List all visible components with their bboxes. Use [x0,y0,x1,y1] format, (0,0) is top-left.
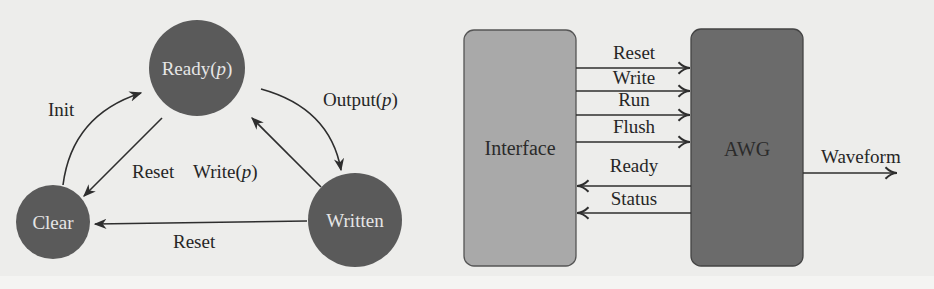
block-diagram: Interface AWG Reset Write Run Flush Read… [464,29,901,266]
node-clear-label: Clear [32,212,74,233]
node-ready-close: ) [226,58,232,80]
signal-write: Write [576,67,690,91]
awg-label: AWG [724,138,770,160]
svg-text:Reset: Reset [613,42,656,63]
svg-text:Write: Write [613,67,656,88]
edge-init [63,93,141,185]
edge-write [252,118,321,187]
awg-box: AWG [691,29,803,266]
signal-ready: Ready [577,155,691,186]
node-ready-param: p [215,58,227,79]
edge-written-reset [95,221,307,224]
signal-reset: Reset [576,42,690,68]
edge-ready-reset-label: Reset [132,161,175,182]
interface-label: Interface [484,137,555,159]
edge-written-reset-label: Reset [173,231,216,252]
svg-text:Ready: Ready [610,155,659,176]
diagram-svg: Ready(p) Clear Written Init Output(p) Re… [0,0,934,289]
svg-text:Status: Status [611,188,657,209]
edge-write-label: Write(p) [193,161,258,183]
edge-init-label: Init [48,99,75,120]
signal-flush: Flush [576,116,690,142]
svg-text:Waveform: Waveform [821,146,901,167]
page-edge-strip [0,276,934,289]
node-written: Written [308,173,402,267]
node-ready: Ready(p) [149,20,245,116]
state-machine: Ready(p) Clear Written Init Output(p) Re… [16,20,402,267]
signal-run: Run [576,89,690,115]
svg-text:Ready(p): Ready(p) [162,58,233,80]
edge-ready-reset [84,118,162,196]
svg-text:Run: Run [618,89,650,110]
interface-box: Interface [464,30,576,266]
svg-text:Flush: Flush [613,116,656,137]
node-written-label: Written [326,210,384,231]
figure-canvas: Ready(p) Clear Written Init Output(p) Re… [0,0,934,289]
edge-output-label: Output(p) [323,89,398,111]
node-clear: Clear [16,185,90,259]
signal-waveform: Waveform [803,146,901,173]
node-ready-label: Ready( [162,58,217,80]
signal-status: Status [577,188,691,213]
